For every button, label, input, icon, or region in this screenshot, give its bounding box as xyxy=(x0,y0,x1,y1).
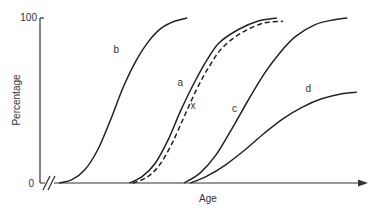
curve-labels: baxcd xyxy=(114,44,312,114)
chart: 0 100 Percentage Age baxcd xyxy=(0,0,374,210)
curve-label-b: b xyxy=(114,44,120,55)
series-line-x xyxy=(133,21,283,183)
series-line-c xyxy=(184,18,347,183)
y-tick-label-100: 100 xyxy=(20,12,37,23)
curve-label-c: c xyxy=(232,103,237,114)
curve-label-a: a xyxy=(178,77,184,88)
series-line-b xyxy=(59,18,187,183)
x-axis-label: Age xyxy=(199,193,217,204)
series-line-d xyxy=(190,92,356,183)
y-tick-label-0: 0 xyxy=(28,178,34,189)
series-layer xyxy=(59,18,357,183)
curve-label-x: x xyxy=(190,100,195,111)
y-axis-label: Percentage xyxy=(11,74,22,126)
x-axis-arrow-icon xyxy=(358,180,368,187)
series-line-a xyxy=(130,18,277,183)
curve-label-d: d xyxy=(306,83,312,94)
